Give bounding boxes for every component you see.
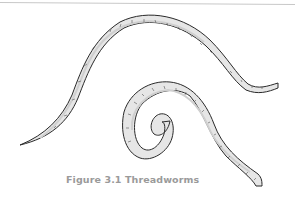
figure-page: Figure 3.1 Threadworms (0, 0, 295, 213)
worm-coiled-icon (123, 82, 262, 186)
worm-long-icon (20, 15, 278, 145)
figure-caption: Figure 3.1 Threadworms (66, 174, 199, 185)
